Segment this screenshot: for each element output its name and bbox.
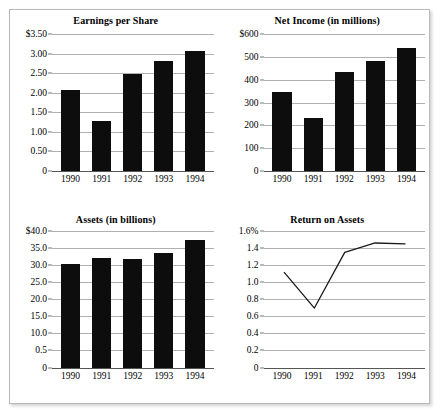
y-tick-label: 0.50 [30, 146, 47, 156]
x-tick-label-1994: 1994 [391, 371, 422, 381]
bar-slot [117, 231, 148, 368]
y-tick-label: $40.0 [26, 226, 47, 236]
x-axis-assets: 19901991199219931994 [52, 371, 214, 381]
x-axis-earnings-per-share: 19901991199219931994 [52, 174, 214, 184]
y-tick-label: $600 [240, 29, 259, 39]
plot-area-net-income: 0100200300400500$600 [264, 34, 426, 171]
bar-1990 [61, 90, 80, 171]
y-tick-label: 0.8 [247, 294, 259, 304]
gridline [52, 368, 214, 369]
bar-slot [391, 34, 422, 171]
chart-grid: Earnings per Share 00.501.001.502.002.50… [10, 10, 433, 407]
y-tick-label: 1.4 [247, 243, 259, 253]
y-tick-label: 20.0 [30, 294, 47, 304]
gridline [264, 171, 426, 172]
bar-slot [179, 34, 210, 171]
y-tick-label: 1.50 [30, 107, 47, 117]
y-tick-label: 400 [244, 75, 258, 85]
bar-slot [117, 34, 148, 171]
x-tick-label-1990: 1990 [267, 174, 298, 184]
x-tick-label-1993: 1993 [148, 174, 179, 184]
bar-slot [148, 34, 179, 171]
x-tick-label-1991: 1991 [86, 371, 117, 381]
chart-title-earnings-per-share: Earnings per Share [10, 15, 222, 26]
chart-panel-earnings-per-share: Earnings per Share 00.501.001.502.002.50… [10, 10, 222, 209]
bar-slot [267, 34, 298, 171]
bar-series [52, 231, 214, 368]
x-tick-label-1994: 1994 [179, 371, 210, 381]
gridline [52, 171, 214, 172]
bar-1991 [92, 258, 111, 368]
bar-1993 [154, 253, 173, 367]
plot-area-assets: 00.510.015.020.025.030.035.0$40.0 [52, 231, 214, 368]
x-tick-label-1993: 1993 [148, 371, 179, 381]
y-tick-label: 10.0 [30, 328, 47, 338]
bar-1990 [61, 264, 80, 367]
bar-slot [86, 231, 117, 368]
y-tick-label: 1.6% [239, 226, 259, 236]
x-tick-label-1991: 1991 [298, 174, 329, 184]
x-tick-label-1990: 1990 [55, 174, 86, 184]
chart-panel-assets: Assets (in billions) 00.510.015.020.025.… [10, 209, 222, 408]
y-tick-label: 300 [244, 98, 258, 108]
x-axis-return-on-assets: 19901991199219931994 [264, 371, 426, 381]
bar-1992 [123, 259, 142, 367]
y-tick-label: 25.0 [30, 277, 47, 287]
bar-series [264, 34, 426, 171]
y-tick-label: 2.50 [30, 68, 47, 78]
gridline [264, 368, 426, 369]
bar-slot [55, 34, 86, 171]
y-tick-label: 0 [42, 166, 47, 176]
x-tick-label-1992: 1992 [329, 174, 360, 184]
y-tick-label: 0.4 [247, 328, 259, 338]
y-tick-label: 35.0 [30, 243, 47, 253]
x-tick-label-1991: 1991 [298, 371, 329, 381]
y-tick-label: 2.00 [30, 88, 47, 98]
bar-slot [55, 231, 86, 368]
y-tick-label: 0.2 [247, 345, 259, 355]
chart-panel-return-on-assets: Return on Assets 00.20.40.60.81.01.21.41… [222, 209, 434, 408]
y-tick-label: 0 [254, 363, 259, 373]
chart-panel-net-income: Net Income (in millions) 010020030040050… [222, 10, 434, 209]
x-tick-label-1993: 1993 [360, 371, 391, 381]
bar-slot [86, 34, 117, 171]
chart-title-assets: Assets (in billions) [10, 214, 222, 225]
bar-slot [329, 34, 360, 171]
y-tick-label: 3.00 [30, 49, 47, 59]
x-tick-label-1992: 1992 [117, 174, 148, 184]
bar-1991 [304, 118, 323, 171]
y-tick-label: 1.00 [30, 127, 47, 137]
bar-1994 [185, 51, 204, 171]
x-tick-label-1993: 1993 [360, 174, 391, 184]
bar-1994 [185, 240, 204, 367]
bar-1993 [154, 61, 173, 171]
bar-1990 [272, 92, 291, 171]
plot-area-earnings-per-share: 00.501.001.502.002.503.00$3.50 [52, 34, 214, 171]
x-tick-label-1991: 1991 [86, 174, 117, 184]
x-tick-label-1990: 1990 [55, 371, 86, 381]
x-tick-label-1994: 1994 [391, 174, 422, 184]
y-tick-label: 1.2 [247, 260, 259, 270]
chart-title-return-on-assets: Return on Assets [222, 214, 434, 225]
bar-slot [179, 231, 210, 368]
y-tick-label: $3.50 [26, 29, 47, 39]
bar-series [52, 34, 214, 171]
line-path [284, 242, 405, 307]
bar-1993 [366, 61, 385, 171]
x-axis-net-income: 19901991199219931994 [264, 174, 426, 184]
bar-slot [148, 231, 179, 368]
y-tick-label: 500 [244, 52, 258, 62]
y-tick-label: 30.0 [30, 260, 47, 270]
bar-slot [360, 34, 391, 171]
y-tick-label: 0 [254, 166, 259, 176]
bar-1992 [123, 74, 142, 171]
bar-1994 [397, 48, 416, 171]
figure-page: Earnings per Share 00.501.001.502.002.50… [0, 0, 443, 419]
plot-area-return-on-assets: 00.20.40.60.81.01.21.41.6% [264, 231, 426, 368]
chart-title-net-income: Net Income (in millions) [222, 15, 434, 26]
y-tick-label: 15.0 [30, 311, 47, 321]
y-tick-label: 1.0 [247, 277, 259, 287]
y-tick-label: 0.5 [35, 345, 47, 355]
bar-1992 [335, 72, 354, 171]
line-series [264, 231, 426, 368]
